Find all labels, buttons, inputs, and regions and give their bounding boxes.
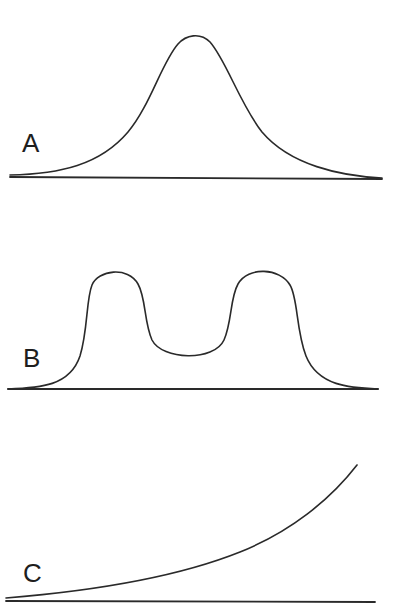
- figure-canvas: A B C: [0, 0, 398, 613]
- bimodal-curve: [8, 271, 378, 389]
- panel-c: C: [6, 465, 375, 602]
- panel-label-b: B: [23, 343, 40, 373]
- increasing-curve: [6, 465, 357, 598]
- panel-a: A: [10, 36, 382, 179]
- panel-label-a: A: [22, 128, 40, 158]
- panel-b: B: [8, 271, 378, 389]
- unimodal-curve: [10, 36, 382, 178]
- baseline-c: [6, 601, 375, 602]
- baseline-a: [10, 177, 382, 179]
- panel-label-c: C: [23, 558, 42, 588]
